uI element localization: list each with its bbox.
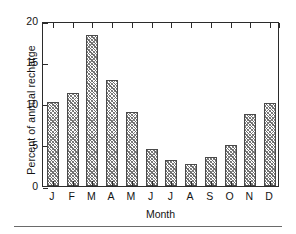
x-axis-tick — [73, 23, 74, 28]
x-axis-tick-label: F — [62, 191, 82, 203]
x-axis-tick — [211, 23, 212, 28]
y-axis-tick — [43, 64, 48, 65]
x-axis-tick — [73, 181, 74, 186]
bottom-divider-rule — [14, 226, 282, 227]
y-axis-tick-label: 10 — [16, 99, 38, 110]
bar — [106, 80, 118, 186]
bar — [244, 114, 256, 186]
x-axis-tick — [53, 23, 54, 28]
x-axis-tick — [112, 181, 113, 186]
x-axis-tick — [211, 181, 212, 186]
x-axis-tick — [53, 181, 54, 186]
x-axis-tick — [191, 23, 192, 28]
x-axis-tick — [270, 23, 271, 28]
x-axis-tick — [231, 181, 232, 186]
y-axis-tick-labels: 05101520 — [12, 0, 38, 234]
x-axis-tick — [250, 23, 251, 28]
x-axis-tick — [171, 181, 172, 186]
bar — [264, 103, 276, 186]
x-axis-tick-label: M — [81, 191, 101, 203]
bar — [126, 112, 138, 186]
bar-chart-figure: Percent of annual recharge 05101520 JFMA… — [0, 0, 296, 234]
x-axis-tick — [231, 23, 232, 28]
x-axis-tick-label: D — [259, 191, 279, 203]
x-axis-tick — [92, 23, 93, 28]
x-axis-tick — [191, 181, 192, 186]
bar — [225, 145, 237, 186]
x-axis-tick-label: A — [101, 191, 121, 203]
bar — [67, 93, 79, 186]
x-axis-tick-label: M — [121, 191, 141, 203]
y-axis-tick-label: 5 — [16, 140, 38, 151]
x-axis-tick-label: J — [42, 191, 62, 203]
y-axis-tick — [43, 23, 48, 24]
bar — [86, 35, 98, 186]
x-axis-tick-label: J — [141, 191, 161, 203]
x-axis-tick — [132, 181, 133, 186]
x-axis-tick-label: O — [220, 191, 240, 203]
x-axis-tick — [250, 181, 251, 186]
x-axis-tick-label: A — [180, 191, 200, 203]
y-axis-tick — [43, 188, 48, 189]
x-axis-tick-label: J — [160, 191, 180, 203]
x-axis-tick — [112, 23, 113, 28]
x-axis-tick — [171, 23, 172, 28]
x-axis-tick — [279, 23, 280, 28]
x-axis-title: Month — [42, 208, 279, 220]
plot-area — [42, 22, 279, 187]
plot-inner — [43, 23, 278, 186]
x-axis-tick — [152, 23, 153, 28]
x-axis-tick-labels: JFMAMJJASOND — [42, 191, 279, 207]
bar — [47, 102, 59, 186]
y-axis-tick-label: 20 — [16, 16, 38, 27]
y-axis-tick-label: 0 — [16, 181, 38, 192]
x-axis-tick-label: N — [239, 191, 259, 203]
y-axis-tick-label: 15 — [16, 57, 38, 68]
x-axis-tick-label: S — [200, 191, 220, 203]
x-axis-tick — [132, 23, 133, 28]
x-axis-tick — [92, 181, 93, 186]
x-axis-tick — [152, 181, 153, 186]
x-axis-tick — [270, 181, 271, 186]
